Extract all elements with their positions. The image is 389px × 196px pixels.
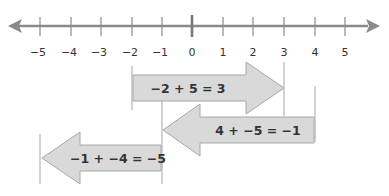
arrow-left-minus1-plus-minus4: −1 + −4 = −5 bbox=[42, 132, 166, 184]
tick-label: 4 bbox=[312, 46, 319, 59]
equation-label: −2 + 5 = 3 bbox=[151, 81, 226, 96]
tick-label: −2 bbox=[122, 46, 138, 59]
tick-label: 5 bbox=[342, 46, 349, 59]
tick-label: 0 bbox=[189, 46, 196, 59]
arrow-left-4-plus-minus5: 4 + −5 = −1 bbox=[163, 104, 314, 156]
arrow-right-minus2-plus5: −2 + 5 = 3 bbox=[133, 62, 284, 114]
number-line-diagram: −5 −4 −3 −2 −1 0 1 2 3 4 5 −2 + 5 = 3 bbox=[0, 0, 389, 196]
tick-label: 2 bbox=[250, 46, 257, 59]
tick-label: −3 bbox=[91, 46, 107, 59]
right-arrowhead-icon bbox=[366, 19, 380, 33]
tick-label: 1 bbox=[220, 46, 227, 59]
equation-label: 4 + −5 = −1 bbox=[215, 123, 300, 138]
number-line-axis bbox=[8, 19, 380, 33]
tick-label: −1 bbox=[152, 46, 168, 59]
tick-label: −4 bbox=[61, 46, 77, 59]
tick-label: −5 bbox=[30, 46, 46, 59]
tick-labels: −5 −4 −3 −2 −1 0 1 2 3 4 5 bbox=[30, 46, 349, 59]
tick-label: 3 bbox=[281, 46, 288, 59]
equation-label: −1 + −4 = −5 bbox=[70, 151, 166, 166]
